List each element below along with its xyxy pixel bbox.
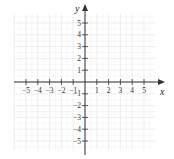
x-axis-arrow-icon — [158, 79, 165, 85]
y-tick-label: −5 — [73, 137, 81, 146]
x-tick-label: 3 — [119, 86, 123, 95]
y-tick-label: 3 — [77, 42, 81, 51]
y-axis-label: y — [74, 3, 80, 14]
y-tick-label: −1 — [73, 89, 81, 98]
coordinate-plane: x y −5−4−3−2−112345 54321−1−2−3−4−5 — [0, 0, 174, 159]
y-tick-label: 2 — [77, 54, 81, 63]
y-tick-label: 4 — [77, 30, 81, 39]
x-tick-label: 4 — [130, 86, 134, 95]
x-tick-label: −3 — [46, 86, 54, 95]
x-tick-label: 1 — [95, 86, 99, 95]
x-tick-label: −4 — [34, 86, 42, 95]
y-axis-arrow-icon — [82, 4, 88, 11]
x-tick-label: 2 — [107, 86, 111, 95]
y-tick-label: −3 — [73, 113, 81, 122]
y-tick-label: −4 — [73, 125, 81, 134]
x-tick-label: −5 — [22, 86, 30, 95]
x-axis-ticks: −5−4−3−2−112345 — [22, 79, 146, 95]
y-tick-label: −2 — [73, 101, 81, 110]
y-tick-label: 1 — [77, 66, 81, 75]
x-axis-label: x — [159, 86, 165, 97]
x-tick-label: −2 — [57, 86, 65, 95]
x-tick-label: 5 — [142, 86, 146, 95]
y-tick-label: 5 — [77, 19, 81, 28]
